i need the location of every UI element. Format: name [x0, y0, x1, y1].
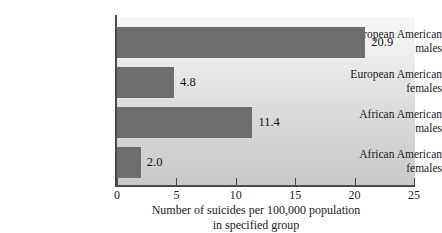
x-axis-title-line2: in specified group	[86, 218, 426, 233]
bar-value-african-american-females: 2.0	[147, 147, 163, 178]
x-tick-label-25: 25	[399, 188, 429, 202]
chart-figure: European American males European America…	[0, 0, 442, 233]
x-axis-title-line1: Number of suicides per 100,000 populatio…	[152, 203, 361, 217]
category-label-line1: African American	[359, 108, 442, 120]
x-axis-line	[115, 185, 415, 187]
x-tick-mark-15	[295, 178, 296, 185]
bar-value-european-american-males: 20.9	[371, 27, 393, 58]
category-label-european-american-females: European American females	[330, 68, 442, 95]
bar-european-american-males	[117, 27, 365, 58]
x-tick-mark-0	[117, 178, 118, 185]
x-tick-mark-10	[236, 178, 237, 185]
category-label-line2: males	[330, 122, 442, 136]
x-tick-label-15: 15	[280, 188, 310, 202]
category-label-african-american-females: African American females	[330, 148, 442, 175]
x-tick-label-5: 5	[161, 188, 191, 202]
category-label-line2: females	[330, 162, 442, 176]
bar-value-european-american-females: 4.8	[180, 67, 196, 98]
category-label-line2: females	[330, 82, 442, 96]
category-label-line1: European American	[350, 68, 442, 80]
bar-european-american-females	[117, 67, 174, 98]
bar-african-american-males	[117, 107, 252, 138]
category-label-african-american-males: African American males	[330, 108, 442, 135]
x-tick-label-20: 20	[340, 188, 370, 202]
bar-african-american-females	[117, 147, 141, 178]
x-tick-mark-25	[414, 178, 415, 185]
x-tick-label-0: 0	[102, 188, 132, 202]
x-axis-title: Number of suicides per 100,000 populatio…	[86, 203, 426, 232]
bar-value-african-american-males: 11.4	[258, 107, 279, 138]
category-label-line1: African American	[359, 148, 442, 160]
x-tick-label-10: 10	[221, 188, 251, 202]
x-tick-mark-20	[355, 178, 356, 185]
x-tick-mark-5	[176, 178, 177, 185]
